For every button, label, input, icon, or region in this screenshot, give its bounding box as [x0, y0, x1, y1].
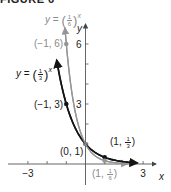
exponential-graph: −33 36 x y: [0, 0, 171, 192]
label-curve-one-third: y = (13)x: [16, 66, 52, 81]
label-point-1-sixth: (1, 16): [92, 168, 117, 181]
y-tick-label: 6: [76, 39, 82, 50]
label-point-0-1: (0, 1): [60, 147, 83, 157]
axes: −33 36 x y: [8, 23, 165, 185]
x-axis-label: x: [158, 171, 165, 182]
label-curve-one-sixth: y = (16)x: [45, 12, 81, 27]
y-tick-label: 3: [76, 99, 82, 110]
label-point-minus1-6: (−1, 6): [34, 39, 63, 49]
x-tick-label: −3: [22, 168, 34, 179]
x-tick-label: 3: [140, 168, 146, 179]
y-ticks: 36: [76, 39, 89, 144]
label-point-minus1-3: (−1, 3): [34, 100, 63, 110]
label-point-1-third: (1, 13): [110, 136, 135, 149]
